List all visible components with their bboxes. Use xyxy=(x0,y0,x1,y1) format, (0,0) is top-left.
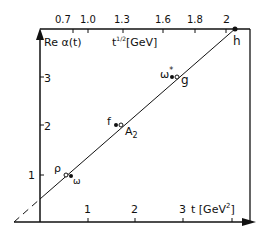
top-tick-1.6: 1.6 xyxy=(155,14,171,25)
y-tick-1: 1 xyxy=(28,169,35,182)
label-f: f xyxy=(107,115,112,128)
top-tick-2: 2 xyxy=(223,13,230,26)
x-tick-1: 1 xyxy=(84,203,91,216)
point-a2 xyxy=(119,123,123,127)
label-a2: A2 xyxy=(125,125,138,140)
y-axis-arrow-icon xyxy=(36,28,44,40)
top-tick-1.8: 1.8 xyxy=(187,14,203,25)
trajectory-extrapolation xyxy=(14,199,40,222)
x-axis-arrow-icon xyxy=(242,218,256,226)
trajectory-line xyxy=(40,28,236,199)
y-tick-2: 2 xyxy=(44,120,51,133)
regge-chart: 1 2 3 t [GeV2] 1 2 3 0.7 1.0 1.3 1.6 1.8… xyxy=(0,0,261,236)
point-h xyxy=(233,27,238,32)
top-tick-0.7: 0.7 xyxy=(55,14,71,25)
point-f xyxy=(114,123,118,127)
y-axis-label: Re α(t) xyxy=(44,36,82,49)
y-tick-3: 3 xyxy=(44,72,51,85)
label-h: h xyxy=(233,34,241,48)
x-axis-label: t [GeV2] xyxy=(191,202,235,216)
top-axis-label: t1/2[GeV] xyxy=(112,35,157,49)
label-g: g xyxy=(181,73,189,87)
point-g xyxy=(175,75,179,79)
x-tick-3: 3 xyxy=(179,203,186,216)
top-tick-1.0: 1.0 xyxy=(80,14,96,25)
top-tick-1.3: 1.3 xyxy=(114,14,130,25)
label-omega: ω xyxy=(73,176,81,186)
point-rho xyxy=(64,173,68,177)
label-rho: ρ xyxy=(54,162,61,175)
point-omega-star xyxy=(170,75,174,79)
x-tick-2: 2 xyxy=(131,203,138,216)
